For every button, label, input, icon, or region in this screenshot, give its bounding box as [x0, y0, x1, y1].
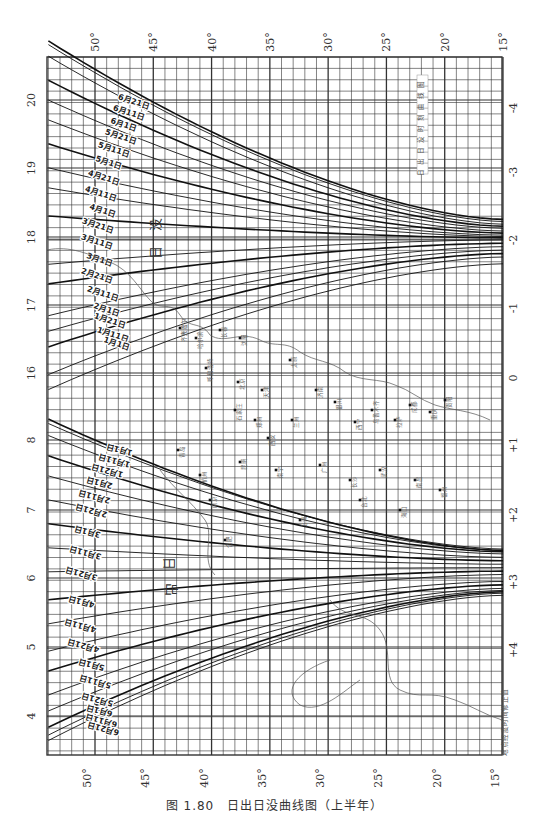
sunrise-region-label: 日 — [162, 557, 177, 570]
top-latitude-tick: 35° — [264, 32, 277, 52]
sunset-date-label: 2月11日 — [86, 284, 120, 303]
sunset-date-label: 5月1日 — [94, 154, 123, 171]
city-label: 石家庄 — [235, 403, 243, 421]
left-hour-tick: 18 — [25, 230, 38, 244]
city-label: 海口 — [400, 506, 408, 518]
date-curve — [48, 424, 503, 550]
inner-title-char: 线 — [416, 92, 425, 99]
left-hour-tick: 20 — [25, 93, 38, 107]
date-curve — [48, 571, 503, 600]
top-latitude-tick: 50° — [89, 32, 102, 52]
right-correction-tick: -1 — [507, 303, 520, 314]
sunset-date-label: 3月1日 — [85, 251, 114, 268]
right-correction-tick: 0 — [507, 375, 520, 382]
date-curve — [48, 476, 503, 554]
bottom-latitude-tick: 40° — [198, 768, 211, 788]
city-label: 太原 — [290, 356, 298, 368]
sunrise-curves — [48, 419, 503, 740]
city-label: 贵阳 — [445, 396, 453, 408]
sunset-region-label: 没 — [148, 218, 163, 231]
bottom-latitude-tick: 50° — [81, 768, 94, 788]
left-hour-tick: 19 — [25, 161, 38, 175]
city-label: 杭州 — [200, 471, 208, 483]
city-label: 西宁 — [355, 418, 363, 430]
city-label: 南宁 — [276, 466, 283, 478]
city-label: 天津 — [263, 386, 270, 398]
inner-title-char: 曲 — [416, 103, 425, 110]
date-curve — [48, 595, 503, 740]
city-label: 福州 — [440, 486, 448, 498]
right-correction-tick: -2 — [507, 235, 520, 246]
chart-canvas: 6月21日6月11日6月1日5月21日5月11日5月1日4月21日4月11日4月… — [0, 0, 549, 832]
city-label: 西安 — [268, 434, 276, 446]
sunset-date-label: 2月21日 — [80, 266, 114, 285]
date-curve — [48, 419, 503, 550]
right-correction-tick: -4 — [507, 103, 520, 114]
inner-title-char: 没 — [416, 136, 425, 143]
correction-note-char: 值 — [500, 689, 509, 696]
city-label: 兰州 — [292, 416, 299, 428]
city-label: 济南 — [316, 386, 324, 398]
sunrise-date-label: 3月21日 — [64, 565, 98, 582]
right-correction-tick: +2 — [507, 507, 520, 523]
date-curve — [48, 568, 503, 572]
sunrise-date-label: 3月1日 — [73, 524, 102, 540]
sunset-date-label: 4月21日 — [87, 168, 121, 187]
correction-note-char: 度 — [500, 726, 509, 733]
top-latitude-tick: 45° — [147, 32, 160, 52]
correction-note-char: 点 — [501, 741, 509, 748]
city-label: 南京 — [210, 496, 218, 508]
city-label: 拉萨 — [395, 416, 403, 428]
right-correction-tick: +1 — [507, 437, 520, 453]
top-latitude-tick: 25° — [380, 32, 393, 52]
left-hour-tick: 6 — [25, 575, 38, 582]
city-label: 乌鲁木齐 — [372, 400, 380, 424]
inner-title-char: 时 — [416, 125, 425, 132]
correction-note-char: 地 — [500, 749, 509, 756]
bottom-latitude-tick: 25° — [372, 768, 385, 788]
inner-title-char: 出 — [416, 158, 425, 165]
date-curve — [48, 524, 503, 561]
city-label: 哈尔滨 — [196, 331, 204, 349]
right-correction-tick: +4 — [507, 642, 520, 658]
sunrise-date-label: 4月11日 — [63, 617, 97, 634]
city-label: 南昌 — [415, 476, 423, 488]
sunset-date-label: 3月11日 — [80, 232, 114, 251]
correction-note-char: 修 — [500, 704, 509, 711]
right-correction-tick: +3 — [507, 574, 520, 590]
correction-note-char: 间 — [501, 711, 509, 718]
city-label: 长沙 — [350, 476, 358, 488]
inner-title-char: 刻 — [416, 114, 425, 121]
city-label: 银川 — [335, 398, 343, 410]
left-hour-tick: 17 — [25, 298, 38, 312]
left-hour-tick: 8 — [25, 437, 38, 444]
bottom-latitude-tick: 20° — [431, 768, 444, 788]
left-hour-tick: 5 — [25, 644, 38, 651]
city-label: 重庆 — [430, 408, 438, 420]
city-label: 北京 — [238, 378, 246, 390]
inner-title-char: 日 — [417, 147, 425, 154]
top-latitude-tick: 20° — [439, 32, 452, 52]
city-label: 合肥 — [225, 536, 233, 548]
sunset-region-label: 日 — [148, 246, 163, 259]
sunrise-region-label: 出 — [164, 583, 179, 596]
city-label: 昆明 — [241, 458, 248, 470]
city-label: 长春 — [220, 326, 228, 338]
left-hour-tick: 7 — [25, 507, 38, 514]
sunset-date-label: 4月11日 — [84, 184, 118, 203]
city-label: 武汉 — [380, 466, 388, 478]
bottom-latitude-tick: 45° — [139, 768, 152, 788]
bottom-latitude-tick: 30° — [314, 768, 327, 788]
city-label: 郑州 — [255, 416, 263, 428]
figure-caption: 图 1.80 日出日没曲线图（上半年） — [0, 796, 549, 813]
sunrise-date-label: 2月1日 — [85, 475, 114, 491]
city-label: 台北 — [360, 496, 368, 508]
city-label: 呼和浩特 — [206, 358, 214, 382]
date-curve — [48, 243, 503, 284]
city-label: 广州 — [320, 461, 328, 473]
left-hour-tick: 4 — [25, 713, 38, 720]
city-label: 青岛 — [178, 446, 186, 458]
correction-note-char: 正 — [501, 696, 509, 703]
right-correction-tick: -3 — [507, 167, 520, 178]
left-hour-tick: 16 — [25, 366, 38, 380]
